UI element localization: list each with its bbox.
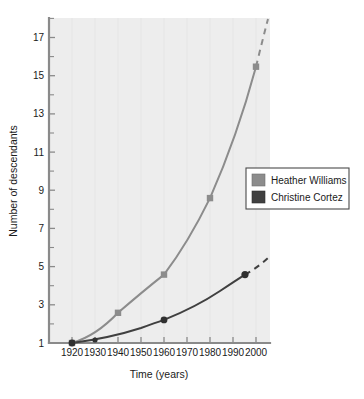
y-tick-label-1: 1: [38, 338, 44, 349]
x-tick-label-1950: 1950: [130, 347, 153, 358]
data-point-christine-1920: [69, 340, 76, 347]
y-tick-label-9: 9: [38, 185, 44, 196]
x-tick-label-1980: 1980: [199, 347, 222, 358]
legend-swatch-christine-cortez: [252, 191, 265, 203]
data-point-heather-1980: [207, 195, 213, 201]
legend-label-heather-williams: Heather Williams: [271, 175, 347, 186]
legend-label-christine-cortez: Christine Cortez: [271, 192, 343, 203]
x-tick-label-1920: 1920: [61, 347, 84, 358]
chart-legend: Heather Williams Christine Cortez: [246, 168, 349, 209]
x-tick-label-1970: 1970: [176, 347, 199, 358]
x-tick-label-1940: 1940: [107, 347, 130, 358]
data-point-heather-2000: [253, 64, 259, 70]
data-point-christine-1930: [92, 337, 97, 342]
y-tick-label-3: 3: [38, 299, 44, 310]
data-point-christine-1960: [161, 317, 168, 324]
y-axis-title: Number of descendants: [7, 125, 19, 236]
x-tick-label-1930: 1930: [84, 347, 107, 358]
data-point-heather-1960: [161, 271, 167, 277]
y-tick-label-15: 15: [33, 70, 45, 81]
y-tick-label-11: 11: [34, 147, 45, 158]
x-tick-label-1990: 1990: [222, 347, 245, 358]
y-tick-label-5: 5: [38, 261, 44, 272]
chart-screenshot: 1 3 5 7 9 11 13 15 17 1920 1930 1940 195…: [0, 0, 364, 399]
x-tick-label-1960: 1960: [153, 347, 176, 358]
y-tick-label-7: 7: [38, 223, 44, 234]
x-tick-label-2000: 2000: [245, 347, 268, 358]
plot-background: [49, 18, 270, 343]
y-tick-label-13: 13: [33, 108, 45, 119]
x-axis-title: Time (years): [130, 368, 189, 380]
data-point-heather-1940: [115, 310, 121, 316]
descendants-line-chart: 1 3 5 7 9 11 13 15 17 1920 1930 1940 195…: [0, 0, 364, 399]
y-tick-label-17: 17: [33, 32, 45, 43]
legend-swatch-heather-williams: [252, 174, 265, 186]
chart-canvas: 1 3 5 7 9 11 13 15 17 1920 1930 1940 195…: [0, 0, 364, 399]
data-point-christine-1995: [241, 271, 248, 278]
